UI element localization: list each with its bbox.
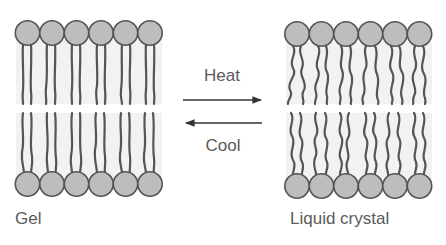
phospholipid-head	[358, 22, 382, 46]
liquid-crystal-label: Liquid crystal	[290, 210, 389, 227]
phospholipid-head	[89, 172, 113, 196]
phospholipid-head	[407, 22, 431, 46]
phospholipid-head	[64, 21, 88, 45]
phospholipid-head	[285, 174, 309, 198]
gel-label: Gel	[15, 210, 41, 227]
phospholipid-head	[138, 172, 162, 196]
phospholipid-head	[407, 174, 431, 198]
phospholipid-head	[138, 21, 162, 45]
phospholipid-head	[64, 172, 88, 196]
phospholipid-head	[334, 174, 358, 198]
gel-leaflet-gap	[14, 104, 164, 113]
gel-bilayer	[14, 21, 164, 196]
transition-arrows	[183, 100, 262, 123]
phospholipid-head	[383, 22, 407, 46]
liquid-crystal-bilayer	[284, 22, 434, 198]
phospholipid-head	[113, 172, 137, 196]
phospholipid-head	[285, 22, 309, 46]
phospholipid-head	[383, 174, 407, 198]
phospholipid-head	[40, 21, 64, 45]
lc-leaflet-gap	[284, 104, 434, 113]
cool-label: Cool	[206, 137, 241, 154]
phospholipid-head	[15, 21, 39, 45]
phospholipid-head	[40, 172, 64, 196]
phospholipid-head	[358, 174, 382, 198]
phospholipid-head	[334, 22, 358, 46]
phospholipid-head	[309, 22, 333, 46]
phospholipid-head	[113, 21, 137, 45]
heat-label: Heat	[204, 67, 240, 84]
phospholipid-head	[309, 174, 333, 198]
phospholipid-head	[89, 21, 113, 45]
phospholipid-head	[15, 172, 39, 196]
